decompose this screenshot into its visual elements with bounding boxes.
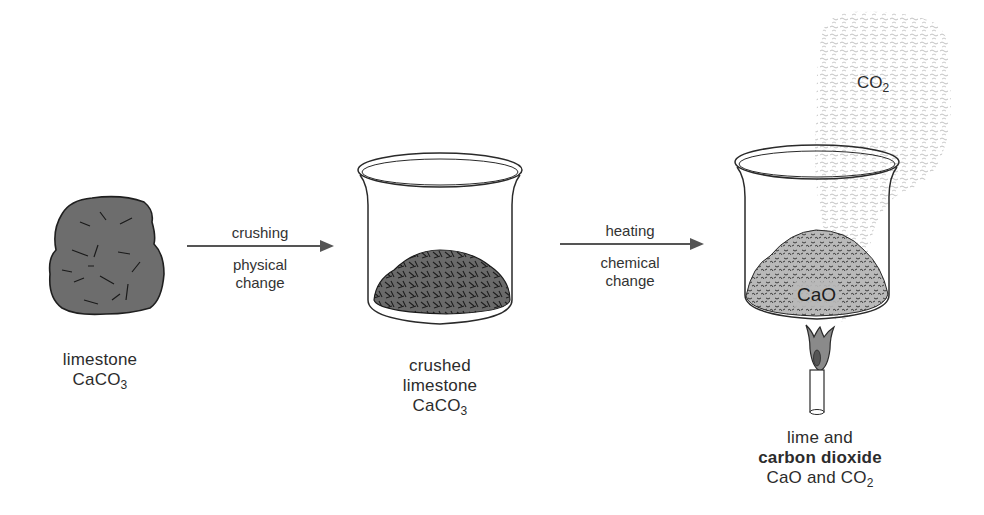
limestone-label: limestone CaCO3 bbox=[40, 350, 160, 390]
lime-formula: CaO and CO2 bbox=[740, 468, 900, 488]
crushed-name-line2: limestone bbox=[370, 376, 510, 396]
lime-name-line2: carbon dioxide bbox=[740, 448, 900, 468]
chemical-change-label: chemical change bbox=[560, 254, 700, 290]
limestone-rock bbox=[50, 197, 164, 315]
limestone-formula: CaCO3 bbox=[40, 370, 160, 390]
heating-label: heating bbox=[560, 222, 700, 240]
formula-main: CaCO bbox=[413, 396, 461, 415]
crushing-label: crushing bbox=[195, 224, 325, 242]
crushed-name-line1: crushed bbox=[370, 356, 510, 376]
physical-label-line1: physical bbox=[195, 256, 325, 274]
physical-label-line2: change bbox=[195, 274, 325, 292]
formula-main: CaO and CO bbox=[766, 468, 866, 487]
diagram-stage: limestone CaCO3 crushing physical change… bbox=[0, 0, 984, 515]
gas-main: CO bbox=[857, 73, 883, 92]
limestone-name: limestone bbox=[40, 350, 160, 370]
beaker-crushed bbox=[358, 153, 522, 324]
lime-co2-label: lime and carbon dioxide CaO and CO2 bbox=[740, 428, 900, 488]
physical-change-label: physical change bbox=[195, 256, 325, 292]
gas-sub: 2 bbox=[883, 81, 890, 95]
chemical-label-line1: chemical bbox=[560, 254, 700, 272]
co2-gas-label: CO2 bbox=[857, 73, 889, 93]
burner bbox=[806, 325, 834, 415]
crushed-formula: CaCO3 bbox=[370, 396, 510, 416]
cao-beaker-label: CaO bbox=[797, 284, 836, 306]
formula-sub: 3 bbox=[121, 378, 128, 392]
formula-sub: 3 bbox=[461, 404, 468, 418]
formula-main: CaCO bbox=[73, 370, 121, 389]
crushed-limestone-label: crushed limestone CaCO3 bbox=[370, 356, 510, 416]
chemical-label-line2: change bbox=[560, 272, 700, 290]
flame-icon bbox=[806, 325, 834, 371]
formula-sub: 2 bbox=[867, 476, 874, 490]
lime-name-line1: lime and bbox=[740, 428, 900, 448]
